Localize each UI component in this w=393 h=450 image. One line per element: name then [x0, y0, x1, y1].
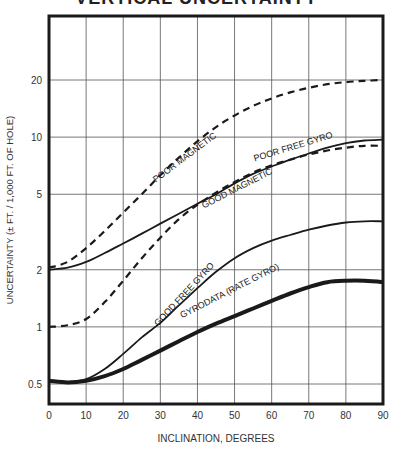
y-tick-labels: 0.51251020: [28, 75, 42, 390]
x-tick-label: 70: [303, 410, 315, 421]
plot-frame: [49, 16, 383, 404]
y-tick-label: 5: [36, 189, 42, 200]
x-tick-label: 30: [155, 410, 167, 421]
y-tick-label: 0.5: [28, 379, 42, 390]
grid-lines: [49, 16, 383, 404]
x-tick-label: 60: [266, 410, 278, 421]
x-tick-label: 80: [340, 410, 352, 421]
x-tick-label: 10: [81, 410, 93, 421]
y-tick-label: 20: [31, 75, 43, 86]
uncertainty-chart: POOR MAGNETICPOOR FREE GYROGOOD MAGNETIC…: [0, 0, 393, 450]
curve-label: GOOD MAGNETIC: [200, 166, 274, 210]
x-tick-labels: 0102030405060708090: [46, 410, 389, 421]
curve-poor-magnetic: [49, 80, 383, 268]
curve-labels: POOR MAGNETICPOOR FREE GYROGOOD MAGNETIC…: [151, 130, 334, 328]
y-tick-label: 10: [31, 132, 43, 143]
x-tick-label: 50: [229, 410, 241, 421]
curve-label: POOR MAGNETIC: [151, 130, 219, 184]
x-tick-label: 0: [46, 410, 52, 421]
y-axis-label: UNCERTAINTY (± FT. / 1,000 FT. OF HOLE): [4, 116, 15, 304]
x-tick-label: 90: [377, 410, 389, 421]
x-tick-label: 40: [192, 410, 204, 421]
y-tick-label: 2: [36, 265, 42, 276]
y-tick-label: 1: [36, 322, 42, 333]
curves: [49, 80, 383, 382]
x-tick-label: 20: [118, 410, 130, 421]
curve-poor-free-gyro: [49, 140, 383, 270]
x-axis-label: INCLINATION, DEGREES: [157, 433, 274, 444]
